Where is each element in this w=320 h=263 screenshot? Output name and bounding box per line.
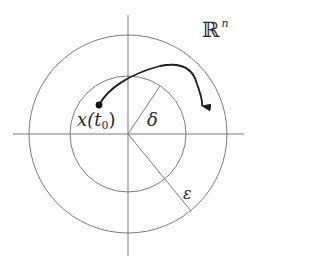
delta-label: δ: [147, 111, 158, 129]
initial-point-dot: [96, 102, 103, 109]
initial-point-label: x(t0): [77, 111, 115, 129]
space-label: ℝn: [202, 20, 227, 41]
epsilon-radius-line: [128, 134, 191, 211]
space-superscript: n: [221, 17, 228, 30]
space-base: ℝ: [202, 18, 219, 42]
initial-point-suffix: ): [108, 109, 115, 130]
epsilon-label: ε: [183, 186, 192, 202]
initial-point-prefix: x(t: [77, 109, 101, 130]
initial-point-subscript: 0: [101, 119, 108, 132]
